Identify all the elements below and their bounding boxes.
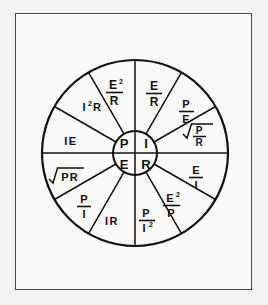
svg-text:R: R [93,101,101,113]
svg-text:P: P [167,207,174,219]
sector-label-p-over-i2: P I 2 [139,207,155,234]
sector-label-e-over-i: E I [189,164,203,191]
svg-text:P: P [182,98,189,110]
svg-text:P: P [196,125,203,136]
ohms-law-wheel: P I E R E R P E P R [0,0,268,305]
sector-label-ir: IR [105,215,119,227]
diagram-frame: P I E R E R P E P R [15,13,252,290]
hub-label-i: I [144,136,148,151]
sector-label-sqrt-pr: PR [49,168,84,183]
svg-text:2: 2 [149,221,153,228]
svg-text:P: P [80,193,87,205]
svg-text:I: I [82,208,85,220]
sector-label-ie: IE [64,135,77,147]
svg-text:E: E [109,78,117,92]
svg-text:E: E [182,113,189,125]
svg-text:E: E [192,164,199,176]
svg-text:2: 2 [88,100,92,107]
svg-text:2: 2 [119,78,123,85]
svg-text:E: E [166,192,173,204]
hub-label-p: P [120,136,129,151]
diagram-page: P I E R E R P E P R [0,0,268,305]
sector-label-e2-over-r: E 2 R [106,78,123,108]
svg-text:IR: IR [105,215,119,227]
svg-text:PR: PR [61,171,78,183]
sector-label-e-over-r: E R [146,79,162,109]
svg-text:I: I [82,101,85,113]
sector-label-p-over-i: P I [77,193,91,220]
sector-label-i2r: I 2 R [82,100,101,113]
svg-text:R: R [195,137,203,148]
sector-label-sqrt-p-over-r: P R [183,124,213,148]
svg-text:P: P [142,207,149,219]
svg-text:R: R [150,95,159,109]
svg-text:IE: IE [64,135,77,147]
svg-text:I: I [142,222,145,234]
divider-330 [154,164,215,200]
hub-label-e: E [120,157,129,172]
svg-text:I: I [194,179,197,191]
svg-text:E: E [150,79,158,93]
svg-text:2: 2 [176,191,180,198]
hub-label-r: R [141,157,151,172]
sector-label-e2-over-p: E 2 P [163,191,180,219]
svg-text:R: R [110,94,119,108]
